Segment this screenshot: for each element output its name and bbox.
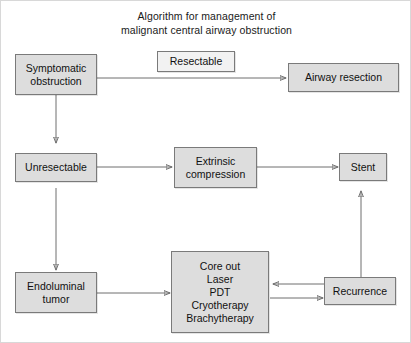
node-stent-text: Stent — [343, 161, 383, 174]
node-treatments-item-1: Core out — [175, 260, 265, 273]
node-extrinsic-compression-line-2: compression — [178, 168, 253, 181]
node-airway-resection-text: Airway resection — [292, 71, 395, 84]
node-treatments-item-4: Cryotherapy — [175, 299, 265, 312]
node-extrinsic-compression[interactable]: Extrinsic compression — [174, 147, 257, 188]
node-treatments-item-3: PDT — [175, 286, 265, 299]
node-resectable-label-text: Resectable — [161, 55, 231, 68]
node-endoluminal-tumor[interactable]: Endoluminal tumor — [15, 272, 97, 313]
flowchart-figure: Algorithm for management of malignant ce… — [0, 0, 411, 343]
figure-title-line-1: Algorithm for management of — [1, 9, 411, 23]
node-treatments-item-5: Brachytherapy — [175, 312, 265, 325]
figure-title: Algorithm for management of malignant ce… — [1, 9, 411, 37]
node-stent[interactable]: Stent — [339, 153, 387, 181]
node-resectable-label[interactable]: Resectable — [157, 51, 235, 72]
figure-title-line-2: malignant central airway obstruction — [1, 23, 411, 37]
node-recurrence-text: Recurrence — [328, 285, 392, 298]
node-symptomatic-obstruction-line-2: obstruction — [19, 75, 93, 88]
node-endoluminal-tumor-line-1: Endoluminal — [19, 280, 93, 293]
node-extrinsic-compression-line-1: Extrinsic — [178, 155, 253, 168]
node-recurrence[interactable]: Recurrence — [324, 277, 396, 305]
node-endoluminal-tumor-line-2: tumor — [19, 293, 93, 306]
node-unresectable-text: Unresectable — [19, 161, 93, 174]
node-symptomatic-obstruction-line-1: Symptomatic — [19, 62, 93, 75]
node-treatments-item-2: Laser — [175, 273, 265, 286]
node-symptomatic-obstruction[interactable]: Symptomatic obstruction — [15, 54, 97, 95]
node-unresectable[interactable]: Unresectable — [15, 153, 97, 182]
node-airway-resection[interactable]: Airway resection — [288, 63, 399, 92]
node-treatments[interactable]: Core out Laser PDT Cryotherapy Brachythe… — [171, 251, 269, 333]
